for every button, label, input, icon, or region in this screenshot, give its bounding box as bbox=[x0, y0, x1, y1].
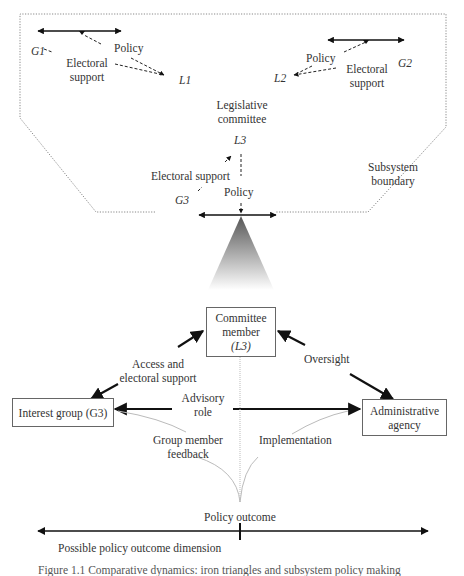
g2-support-label: Electoral support bbox=[343, 62, 391, 90]
g2-label: G2 bbox=[398, 56, 412, 70]
legislative-committee-line2: committee bbox=[207, 112, 277, 126]
committee-member-line3: (L3) bbox=[231, 339, 251, 353]
feedback-line2: feedback bbox=[150, 447, 226, 461]
legislative-committee-label: Legislative committee bbox=[207, 98, 277, 126]
l3-label: L3 bbox=[234, 133, 246, 147]
projection-cone bbox=[208, 216, 274, 290]
l3-policy-label: Policy bbox=[224, 185, 253, 199]
advisory-role-label: Advisory role bbox=[175, 391, 231, 419]
g1-policy-label: Policy bbox=[114, 41, 143, 55]
committee-member-line1: Committee bbox=[215, 311, 266, 325]
l1-label: L1 bbox=[179, 73, 191, 87]
subsystem-boundary-label: Subsystem boundary bbox=[366, 160, 420, 188]
administrative-agency-box: Administrative agency bbox=[362, 399, 447, 436]
g2-policy-line bbox=[328, 40, 404, 44]
g3-support-label: Electoral support bbox=[151, 169, 230, 183]
g1-support-label: Electoral support bbox=[63, 56, 111, 84]
interest-group-label: Interest group (G3) bbox=[19, 406, 108, 420]
oversight-label: Oversight bbox=[304, 352, 349, 366]
committee-member-line2: member bbox=[222, 325, 260, 339]
access-line2: electoral support bbox=[112, 371, 204, 385]
implementation-label: Implementation bbox=[259, 433, 332, 447]
figure-caption: Figure 1.1 Comparative dynamics: iron tr… bbox=[38, 564, 401, 576]
l2-label: L2 bbox=[274, 71, 286, 85]
legislative-committee-line1: Legislative bbox=[207, 98, 277, 112]
subsystem-boundary-line2: boundary bbox=[366, 174, 420, 188]
g1-policy-line bbox=[38, 31, 121, 35]
access-line1: Access and bbox=[112, 357, 204, 371]
agency-line1: Administrative bbox=[370, 404, 439, 418]
outcome-dimension-line bbox=[38, 523, 428, 540]
outcome-dimension-label: Possible policy outcome dimension bbox=[58, 541, 221, 555]
agency-line2: agency bbox=[388, 418, 421, 432]
g3-label: G3 bbox=[175, 193, 189, 207]
access-support-label: Access and electoral support bbox=[112, 357, 204, 385]
policy-outcome-label: Policy outcome bbox=[204, 510, 276, 524]
g1-label: G1 bbox=[31, 44, 45, 58]
subsystem-boundary-line1: Subsystem bbox=[366, 160, 420, 174]
g2-policy-label: Policy bbox=[306, 51, 335, 65]
interest-group-box: Interest group (G3) bbox=[12, 398, 114, 427]
advisory-line1: Advisory bbox=[175, 391, 231, 405]
committee-member-box: Committee member (L3) bbox=[206, 307, 276, 357]
group-member-feedback-label: Group member feedback bbox=[150, 433, 226, 461]
feedback-line1: Group member bbox=[150, 433, 226, 447]
l3-dashed-arrows bbox=[198, 154, 241, 213]
advisory-line2: role bbox=[175, 405, 231, 419]
